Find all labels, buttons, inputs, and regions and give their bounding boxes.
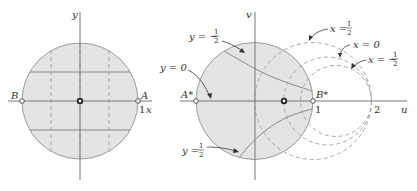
arrow-icon: [340, 45, 350, 56]
left-diagram: y x B A 1: [8, 9, 152, 180]
svg-text:2: 2: [199, 151, 203, 159]
point-A-label: A: [140, 90, 148, 101]
conformal-map-diagram: y x B A 1 v u A* B* 1 2: [0, 0, 417, 191]
svg-text:y =: y =: [181, 145, 199, 156]
point-A-star: [194, 99, 199, 104]
point-A-star-label: A*: [180, 89, 193, 100]
label-x-half: x = 1 2: [309, 20, 352, 41]
arrowhead-icon: [338, 53, 342, 58]
v-axis-label: v: [246, 9, 252, 20]
svg-text:1: 1: [214, 28, 218, 36]
point-B-label: B: [10, 90, 18, 101]
image-center-point: [282, 99, 287, 104]
svg-text:2: 2: [347, 29, 351, 37]
point-B-star: [311, 99, 316, 104]
arrow-icon: [310, 29, 328, 39]
svg-text:1: 1: [347, 20, 351, 28]
point-B-star-label: B*: [315, 89, 328, 100]
svg-text:x =: x =: [330, 23, 347, 34]
tick-2-label: 2: [374, 104, 380, 115]
x-axis-label: x: [146, 104, 152, 115]
tick-1-label: 1: [139, 104, 145, 115]
svg-text:1: 1: [199, 142, 203, 150]
right-diagram: v u A* B* 1 2 y = − 1 2 y = 0 y = 1 2: [159, 9, 407, 180]
y-axis-label: y: [71, 9, 78, 20]
svg-text:2: 2: [393, 60, 397, 68]
label-x-neg-half: x = − 1 2: [351, 51, 398, 69]
svg-text:x = 0: x = 0: [353, 39, 380, 50]
point-A: [136, 99, 141, 104]
u-axis-label: u: [401, 104, 407, 115]
svg-text:y = 0: y = 0: [159, 62, 187, 73]
svg-text:2: 2: [214, 37, 218, 45]
tick-1-label: 1: [315, 104, 321, 115]
svg-text:1: 1: [393, 51, 397, 59]
center-point: [78, 99, 83, 104]
point-B: [20, 99, 25, 104]
